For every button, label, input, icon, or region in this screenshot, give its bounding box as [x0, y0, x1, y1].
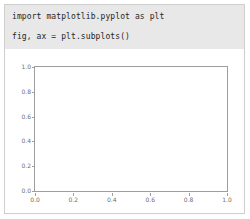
y-tick-mark	[32, 92, 35, 93]
y-tick-label: 0.6	[21, 114, 31, 120]
x-tick-label: 0.4	[107, 197, 117, 203]
code-line-subplots: fig, ax = plt.subplots()	[12, 32, 244, 41]
y-tick-mark	[32, 191, 35, 192]
code-block: import matplotlib.pyplot as plt fig, ax …	[5, 5, 244, 49]
x-tick-label: 0.0	[30, 197, 40, 203]
documentation-card: import matplotlib.pyplot as plt fig, ax …	[4, 4, 245, 214]
x-tick-label: 1.0	[222, 197, 232, 203]
y-tick-label: 0.2	[21, 163, 31, 169]
matplotlib-figure: 0.00.20.40.60.81.0 0.00.20.40.60.81.0	[5, 50, 244, 213]
y-tick-mark	[32, 67, 35, 68]
y-tick-mark	[32, 166, 35, 167]
code-line-import: import matplotlib.pyplot as plt	[12, 12, 244, 21]
y-tick-mark	[32, 117, 35, 118]
y-tick-label: 0.4	[21, 138, 31, 144]
x-tick-label: 0.2	[69, 197, 79, 203]
y-tick-mark	[32, 141, 35, 142]
screenshot-root: import matplotlib.pyplot as plt fig, ax …	[0, 0, 250, 219]
x-tick-label: 0.6	[145, 197, 155, 203]
x-tick-label: 0.8	[184, 197, 194, 203]
y-tick-label: 1.0	[21, 64, 31, 70]
y-tick-label: 0.8	[21, 89, 31, 95]
plot-axes: 0.00.20.40.60.81.0 0.00.20.40.60.81.0	[34, 66, 228, 192]
y-tick-label: 0.0	[21, 188, 31, 194]
